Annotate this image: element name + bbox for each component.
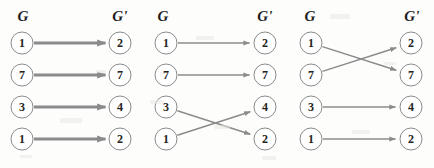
- graph-node-label: 7: [110, 65, 131, 86]
- graph-node-source: 1: [11, 32, 34, 55]
- graph-node-label: 1: [301, 33, 322, 54]
- graph-node-source: 1: [155, 128, 178, 151]
- column-header-target: G': [404, 8, 420, 25]
- scan-artifact: [196, 36, 214, 40]
- graph-node-target: 2: [400, 128, 423, 151]
- graph-node-label: 2: [110, 129, 131, 150]
- graph-node-source: 1: [155, 32, 178, 55]
- graph-node-source: 7: [11, 64, 34, 87]
- column-header-source: G: [17, 8, 28, 25]
- graph-node-label: 2: [401, 129, 422, 150]
- graph-node-label: 7: [401, 65, 422, 86]
- graph-node-label: 1: [156, 33, 177, 54]
- graph-node-source: 1: [300, 32, 323, 55]
- scan-artifact: [150, 100, 164, 104]
- graph-edge: [177, 111, 250, 135]
- graph-node-label: 4: [255, 97, 276, 118]
- graph-node-label: 4: [401, 97, 422, 118]
- scan-artifact: [330, 14, 350, 19]
- graph-node-target: 4: [109, 96, 132, 119]
- graph-node-target: 2: [254, 128, 277, 151]
- graph-node-source: 3: [300, 96, 323, 119]
- graph-node-target: 2: [254, 32, 277, 55]
- graph-node-target: 4: [400, 96, 423, 119]
- scan-artifact: [20, 155, 32, 158]
- column-header-target: G': [112, 8, 128, 25]
- graph-edge: [322, 48, 396, 72]
- graph-node-label: 2: [110, 33, 131, 54]
- graph-node-label: 1: [301, 129, 322, 150]
- scan-artifact: [96, 70, 106, 73]
- graph-node-label: 2: [255, 129, 276, 150]
- graph-node-source: 7: [300, 64, 323, 87]
- graph-node-label: 2: [401, 33, 422, 54]
- graph-node-label: 1: [156, 129, 177, 150]
- scan-artifact: [262, 156, 276, 160]
- graph-node-label: 2: [255, 33, 276, 54]
- graph-node-target: 7: [400, 64, 423, 87]
- graph-node-target: 7: [109, 64, 132, 87]
- bipartite-graph-figure: 173127421731274217312742 GG'GG'GG': [0, 0, 434, 168]
- graph-node-label: 3: [12, 97, 33, 118]
- graph-node-label: 3: [301, 97, 322, 118]
- graph-node-source: 1: [11, 128, 34, 151]
- graph-node-source: 1: [300, 128, 323, 151]
- scan-artifact: [214, 125, 230, 129]
- graph-node-label: 7: [255, 65, 276, 86]
- graph-node-source: 7: [155, 64, 178, 87]
- graph-node-label: 7: [301, 65, 322, 86]
- graph-node-target: 2: [109, 128, 132, 151]
- graph-edge: [177, 112, 250, 136]
- column-header-source: G: [304, 8, 315, 25]
- graph-node-label: 1: [12, 33, 33, 54]
- column-header-target: G': [257, 8, 273, 25]
- graph-node-target: 7: [254, 64, 277, 87]
- column-header-source: G: [157, 8, 168, 25]
- scan-artifact: [384, 62, 396, 65]
- graph-node-target: 2: [109, 32, 132, 55]
- graph-node-label: 1: [12, 129, 33, 150]
- graph-node-label: 7: [12, 65, 33, 86]
- graph-node-label: 4: [110, 97, 131, 118]
- graph-edge: [322, 47, 396, 71]
- graph-node-target: 2: [400, 32, 423, 55]
- graph-node-source: 3: [11, 96, 34, 119]
- scan-artifact: [352, 130, 370, 134]
- graph-node-label: 7: [156, 65, 177, 86]
- graph-edges-layer: [0, 0, 434, 168]
- graph-node-source: 3: [155, 96, 178, 119]
- scan-artifact: [60, 118, 82, 123]
- graph-node-target: 4: [254, 96, 277, 119]
